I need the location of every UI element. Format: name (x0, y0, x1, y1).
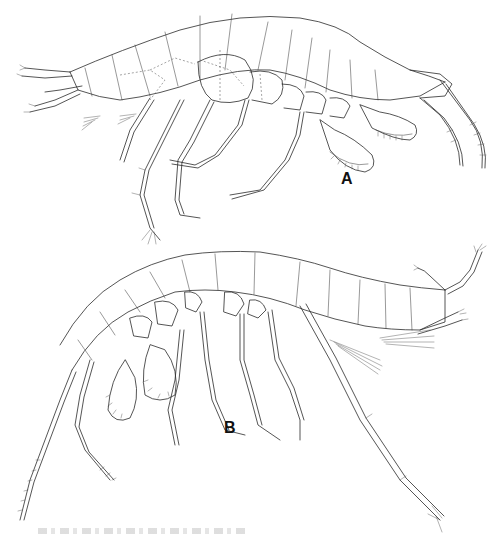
panel-label-a: A (341, 171, 353, 187)
specimen-b-drawing (18, 244, 486, 532)
panel-label-b: B (224, 420, 236, 436)
amphipod-illustrations (0, 0, 494, 538)
specimen-a-drawing (17, 14, 486, 244)
figure-plate: A B (0, 0, 494, 538)
figure-caption-illegible (38, 528, 248, 534)
